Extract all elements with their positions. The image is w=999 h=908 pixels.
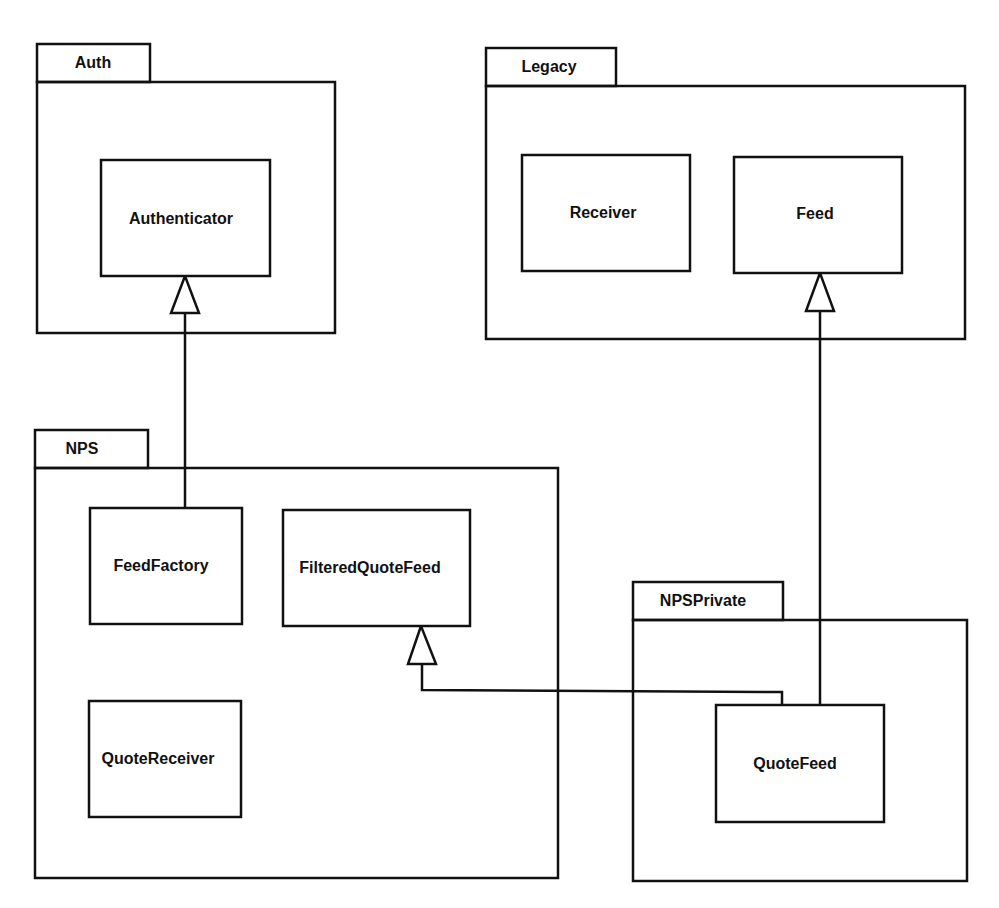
- generalization-arrow[interactable]: [408, 626, 782, 705]
- generalization-arrow[interactable]: [171, 276, 199, 508]
- classes-layer: [89, 155, 902, 822]
- class-label-filteredquotefeed: FilteredQuoteFeed: [299, 559, 440, 577]
- class-label-feed: Feed: [796, 205, 833, 223]
- relationship-line[interactable]: [422, 664, 782, 705]
- class-label-quotereceiver: QuoteReceiver: [102, 750, 215, 768]
- class-label-feedfactory: FeedFactory: [113, 557, 208, 575]
- package-label-nps: NPS: [66, 440, 99, 458]
- hollow-triangle-arrowhead-icon: [171, 276, 199, 313]
- package-label-auth: Auth: [75, 54, 111, 72]
- hollow-triangle-arrowhead-icon: [806, 273, 834, 311]
- package-label-legacy: Legacy: [521, 58, 576, 76]
- class-label-quotefeed: QuoteFeed: [753, 755, 837, 773]
- class-label-receiver: Receiver: [570, 204, 637, 222]
- hollow-triangle-arrowhead-icon: [408, 626, 436, 664]
- uml-diagram-canvas: [0, 0, 999, 908]
- package-label-npsprivate: NPSPrivate: [660, 592, 746, 610]
- class-label-authenticator: Authenticator: [129, 210, 233, 228]
